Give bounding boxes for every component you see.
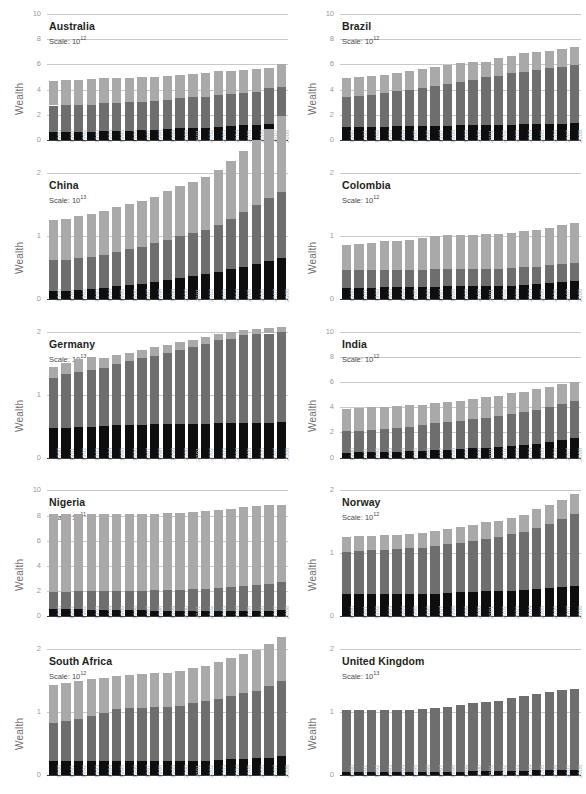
bar-segment-mid: [99, 713, 108, 761]
bar-segment-high: [74, 681, 83, 719]
bar: [342, 332, 351, 458]
bar-segment-mid: [264, 334, 273, 423]
y-axis-tick-label: 2: [23, 587, 41, 595]
bar-segment-mid: [150, 243, 159, 282]
bar-segment-high: [150, 673, 159, 707]
bar-segment-mid: [252, 92, 261, 125]
bar-segment-mid: [112, 709, 121, 761]
bar-segment-high: [456, 63, 465, 81]
bar-segment-mid: [557, 67, 566, 124]
bar: [392, 649, 401, 775]
bar-segment-high: [405, 240, 414, 270]
bar-segment-mid: [545, 407, 554, 442]
bar-segment-high: [226, 71, 235, 94]
bar-segment-mid: [87, 716, 96, 761]
bar: [49, 332, 58, 458]
bar-segment-high: [137, 514, 146, 591]
y-axis-label: Wealth: [307, 83, 318, 115]
bar: [99, 14, 108, 140]
bar: [443, 14, 452, 140]
bar-segment-mid: [137, 247, 146, 284]
bar-segment-high: [342, 537, 351, 551]
bar-segment-high: [87, 214, 96, 256]
x-axis-tick-label: 2008: [284, 447, 290, 460]
bar: [277, 490, 286, 616]
y-axis-tick-label: 10: [23, 10, 41, 18]
bar-segment-high: [99, 78, 108, 103]
bar: [49, 490, 58, 616]
bar-segment-high: [392, 241, 401, 270]
bar: [150, 173, 159, 299]
bar-segment-high: [456, 527, 465, 543]
x-axis-tick-label: 2008: [577, 130, 583, 143]
bar-segment-mid: [99, 368, 108, 426]
panel-colombia: 012WealthColombiaScale: 1012199019911992…: [293, 165, 586, 324]
bar: [214, 332, 223, 458]
bar-segment-mid: [354, 96, 363, 127]
bar: [468, 14, 477, 140]
bar-segment-high: [99, 358, 108, 368]
bar-segment-high: [150, 197, 159, 244]
bar: [264, 490, 273, 616]
bar-segment-high: [87, 79, 96, 104]
bar-segment-mid: [392, 270, 401, 288]
bar-segment-high: [239, 151, 248, 212]
bar-segment-mid: [443, 84, 452, 125]
bar-segment-mid: [239, 335, 248, 423]
bar: [494, 649, 503, 775]
bar-segment-high: [277, 116, 286, 192]
bar-segment-high: [380, 241, 389, 269]
bar: [342, 173, 351, 299]
bar: [214, 490, 223, 616]
y-axis-tick-label: 2: [23, 169, 41, 177]
bar: [507, 332, 516, 458]
bar-segment-mid: [468, 419, 477, 448]
bar: [112, 332, 121, 458]
y-axis-tick-label: 0: [316, 295, 334, 303]
bar-segment-high: [112, 676, 121, 709]
bar-segment-mid: [494, 537, 503, 591]
bar-segment-high: [112, 514, 121, 591]
bar: [74, 173, 83, 299]
bar: [481, 14, 490, 140]
bar: [507, 173, 516, 299]
bar: [570, 332, 579, 458]
bar: [137, 332, 146, 458]
bar: [74, 490, 83, 616]
bar: [570, 173, 579, 299]
bar: [392, 173, 401, 299]
bar: [252, 490, 261, 616]
bar: [342, 14, 351, 140]
bar-segment-high: [49, 81, 58, 106]
bar: [456, 649, 465, 775]
panel-south-africa: 012WealthSouth AfricaScale: 101219901991…: [0, 641, 293, 794]
bar-segment-high: [367, 407, 376, 430]
bar-segment-mid: [175, 236, 184, 278]
y-axis-tick-label: 4: [23, 86, 41, 94]
bar: [264, 332, 273, 458]
panel-germany: 012WealthGermanyScale: 10131990199119921…: [0, 324, 293, 483]
panel-norway: 012WealthNorwayScale: 101219901991199219…: [293, 482, 586, 641]
bar-segment-mid: [443, 422, 452, 450]
bar-segment-mid: [380, 550, 389, 595]
bar-segment-mid: [545, 524, 554, 588]
y-axis-tick-label: 8: [23, 35, 41, 43]
bar-segment-mid: [481, 418, 490, 448]
bar: [367, 14, 376, 140]
bar: [367, 490, 376, 616]
bar: [201, 649, 210, 775]
bar-segment-high: [112, 78, 121, 103]
bar: [49, 649, 58, 775]
y-axis-tick-label: 2: [316, 428, 334, 436]
bar-segment-high: [264, 68, 273, 88]
bar-segment-high: [175, 186, 184, 236]
bar-segment-mid: [61, 105, 70, 132]
bar-segment-mid: [468, 269, 477, 287]
y-axis-tick-label: 0: [23, 295, 41, 303]
bar: [175, 173, 184, 299]
y-axis-tick-label: 1: [23, 708, 41, 716]
bar: [264, 173, 273, 299]
bar: [456, 490, 465, 616]
bar: [112, 490, 121, 616]
bar-segment-high: [519, 53, 528, 71]
